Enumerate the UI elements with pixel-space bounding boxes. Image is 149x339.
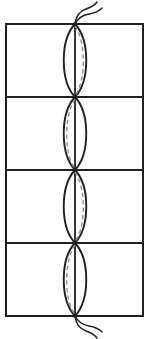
node-point-bottom xyxy=(73,314,77,318)
figure-root xyxy=(0,0,149,339)
geometric-diagram-svg xyxy=(0,0,149,339)
node-point-2 xyxy=(73,168,77,172)
node-point-1 xyxy=(73,95,77,99)
node-point-3 xyxy=(73,241,77,245)
node-point-top xyxy=(73,22,77,26)
